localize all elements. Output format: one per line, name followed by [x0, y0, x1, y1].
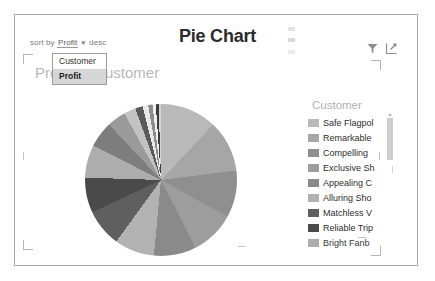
legend-swatch [308, 179, 319, 187]
legend-item[interactable]: Alluring Sho [308, 190, 386, 205]
selection-corner-bottom-left [23, 240, 33, 250]
legend-item-label: Exclusive Sh [323, 163, 375, 173]
stepper-down-icon[interactable] [288, 50, 295, 54]
legend-title: Customer [312, 99, 386, 112]
scrollbar-track-tick [392, 166, 393, 173]
legend-item[interactable]: Reliable Trip [308, 220, 386, 235]
stepper-handle-icon[interactable] [288, 38, 295, 42]
screenshot-root: sort by Profit ▾ desc Profit by Customer… [0, 0, 435, 281]
legend-item-label: Matchless V [323, 208, 372, 218]
legend-item-label: Safe Flagpol [323, 118, 374, 128]
legend-item[interactable]: Matchless V [308, 205, 386, 220]
legend-item[interactable]: Compelling [308, 145, 386, 160]
legend-item-label: Reliable Trip [323, 223, 373, 233]
chart-toolbar [366, 42, 398, 55]
selection-corner-top-left [23, 54, 33, 64]
legend-swatch [308, 194, 319, 202]
pie-chart-slices[interactable] [85, 104, 237, 256]
legend-item-label: Alluring Sho [323, 193, 372, 203]
scrollbar-up-arrow-icon[interactable] [387, 112, 394, 117]
filter-icon[interactable] [366, 42, 379, 55]
dropdown-option-customer[interactable]: Customer [53, 54, 106, 69]
legend-swatch [308, 239, 319, 247]
scrollbar-thumb[interactable] [387, 118, 393, 160]
legend-swatch [308, 119, 319, 127]
popout-icon[interactable] [385, 42, 398, 55]
selection-edge-bottom [238, 246, 246, 247]
legend-swatch [308, 149, 319, 157]
chart-legend[interactable]: Customer Safe FlagpolRemarkableCompellin… [308, 99, 386, 254]
legend-swatch [308, 224, 319, 232]
legend-item-label: Remarkable [323, 133, 372, 143]
pie-chart[interactable] [85, 104, 237, 256]
legend-item[interactable]: Bright Fanb [308, 235, 386, 250]
legend-item[interactable]: Remarkable [308, 130, 386, 145]
vertical-stepper-control[interactable] [287, 27, 296, 57]
selection-edge-left [23, 152, 24, 160]
legend-scrollbar[interactable] [386, 112, 394, 182]
stepper-up-icon[interactable] [288, 27, 295, 31]
legend-item-label: Appealing C [323, 178, 372, 188]
legend-list: Safe FlagpolRemarkableCompellingExclusiv… [308, 115, 386, 250]
dropdown-option-profit[interactable]: Profit [53, 69, 106, 84]
legend-item[interactable]: Appealing C [308, 175, 386, 190]
legend-item-label: Bright Fanb [323, 238, 370, 248]
selection-corner-top-right [371, 60, 381, 70]
legend-item-label: Compelling [323, 148, 368, 158]
legend-swatch [308, 209, 319, 217]
sort-field-dropdown-menu[interactable]: Customer Profit [52, 53, 107, 85]
legend-swatch [308, 164, 319, 172]
legend-item[interactable]: Safe Flagpol [308, 115, 386, 130]
legend-swatch [308, 134, 319, 142]
legend-item[interactable]: Exclusive Sh [308, 160, 386, 175]
